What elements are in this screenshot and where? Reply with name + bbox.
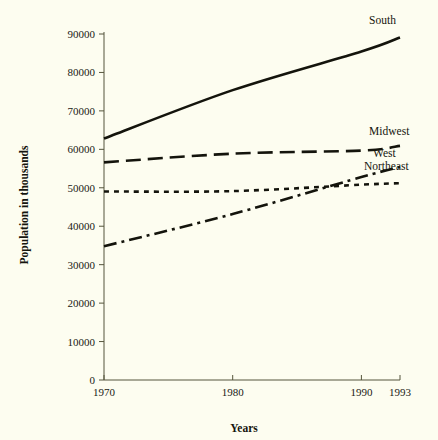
x-tick-label: 1990 [350, 386, 373, 398]
x-axis-title: Years [230, 422, 258, 434]
y-tick-label: 60000 [68, 143, 96, 155]
series-label-west: West [373, 147, 397, 159]
x-tick-label: 1993 [389, 386, 412, 398]
series-label-midwest: Midwest [369, 125, 410, 137]
x-tick-label: 1970 [93, 386, 116, 398]
chart-figure: 0100002000030000400005000060000700008000… [0, 0, 438, 440]
y-axis-title: Population in thousands [18, 145, 31, 264]
x-tick-label: 1980 [222, 386, 245, 398]
y-tick-label: 10000 [68, 336, 96, 348]
y-tick-label: 50000 [68, 182, 96, 194]
chart-background [0, 0, 438, 440]
series-label-northeast: Northeast [364, 160, 410, 172]
y-tick-label: 0 [90, 374, 96, 386]
series-label-south: South [369, 14, 396, 26]
y-tick-label: 80000 [68, 66, 96, 78]
y-tick-label: 90000 [68, 28, 96, 40]
y-tick-label: 30000 [68, 259, 96, 271]
y-tick-label: 20000 [68, 297, 96, 309]
y-tick-label: 40000 [68, 220, 96, 232]
y-tick-label: 70000 [68, 105, 96, 117]
line-chart-canvas: 0100002000030000400005000060000700008000… [0, 0, 438, 440]
